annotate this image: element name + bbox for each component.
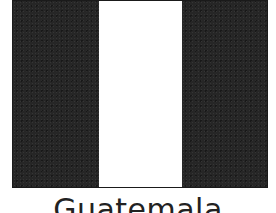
country-caption: Guatemala [0, 195, 276, 213]
flag-band-center [99, 1, 182, 187]
flag-band-right [182, 1, 267, 187]
flag-band-left [13, 1, 99, 187]
flag-image [12, 0, 268, 188]
